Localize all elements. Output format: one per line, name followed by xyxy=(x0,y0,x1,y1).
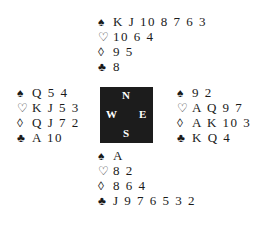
north-hand: ♠K J 10 8 7 6 3 ♡10 6 4 ◊9 5 ♣8 xyxy=(98,14,207,74)
spade-icon: ♠ xyxy=(17,86,32,101)
east-diamonds: ◊A K 10 3 xyxy=(177,115,251,130)
west-spades: ♠Q 5 4 xyxy=(17,85,80,100)
south-diamonds: ◊8 6 4 xyxy=(98,178,196,193)
spade-icon: ♠ xyxy=(98,149,113,164)
compass-east: E xyxy=(139,108,146,120)
diamond-icon: ◊ xyxy=(98,45,113,60)
east-hearts: ♡A Q 9 7 xyxy=(177,100,251,115)
north-diamonds: ◊9 5 xyxy=(98,44,207,59)
west-clubs: ♣A 10 xyxy=(17,130,80,145)
south-clubs: ♣J 9 7 6 5 3 2 xyxy=(98,193,196,208)
south-hand: ♠A ♡8 2 ◊8 6 4 ♣J 9 7 6 5 3 2 xyxy=(98,148,196,208)
east-hand: ♠9 2 ♡A Q 9 7 ◊A K 10 3 ♣K Q 4 xyxy=(177,85,251,145)
compass-south: S xyxy=(123,127,129,139)
club-icon: ♣ xyxy=(98,60,113,75)
heart-icon: ♡ xyxy=(177,101,192,116)
north-hearts: ♡10 6 4 xyxy=(98,29,207,44)
heart-icon: ♡ xyxy=(98,164,113,179)
heart-icon: ♡ xyxy=(17,101,32,116)
diamond-icon: ◊ xyxy=(98,179,113,194)
west-diamonds: ◊Q J 7 2 xyxy=(17,115,80,130)
east-spades: ♠9 2 xyxy=(177,85,251,100)
compass-box: N W E S xyxy=(100,87,153,143)
north-spades: ♠K J 10 8 7 6 3 xyxy=(98,14,207,29)
diamond-icon: ◊ xyxy=(17,116,32,131)
diamond-icon: ◊ xyxy=(177,116,192,131)
south-hearts: ♡8 2 xyxy=(98,163,196,178)
north-clubs: ♣8 xyxy=(98,59,207,74)
compass-west: W xyxy=(106,108,117,120)
west-hand: ♠Q 5 4 ♡K J 5 3 ◊Q J 7 2 ♣A 10 xyxy=(17,85,80,145)
spade-icon: ♠ xyxy=(98,15,113,30)
west-hearts: ♡K J 5 3 xyxy=(17,100,80,115)
east-clubs: ♣K Q 4 xyxy=(177,130,251,145)
spade-icon: ♠ xyxy=(177,86,192,101)
compass-north: N xyxy=(122,89,130,101)
club-icon: ♣ xyxy=(17,131,32,146)
club-icon: ♣ xyxy=(177,131,192,146)
heart-icon: ♡ xyxy=(98,30,113,45)
club-icon: ♣ xyxy=(98,194,113,209)
south-spades: ♠A xyxy=(98,148,196,163)
